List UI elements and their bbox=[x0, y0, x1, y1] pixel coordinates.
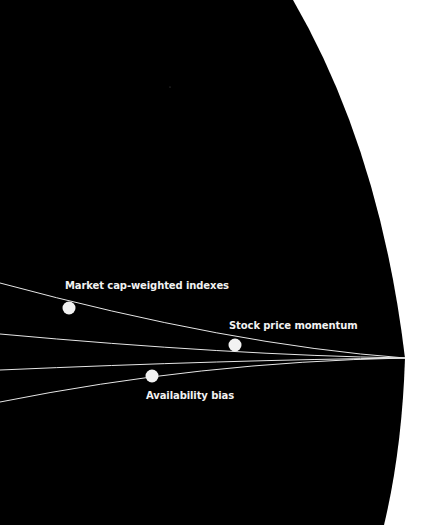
stock-price-momentum-label: Stock price momentum bbox=[229, 320, 358, 332]
availability-bias-dot bbox=[146, 370, 159, 383]
convergence-diagram bbox=[0, 0, 424, 525]
speck bbox=[169, 86, 170, 87]
stock-momentum-dot bbox=[229, 339, 242, 352]
diagram-canvas: Market cap-weighted indexes Stock price … bbox=[0, 0, 424, 525]
availability-bias-label: Availability bias bbox=[146, 390, 234, 402]
black-field bbox=[0, 0, 405, 525]
market-cap-weighted-indexes-label: Market cap-weighted indexes bbox=[65, 280, 229, 292]
market-cap-dot bbox=[63, 302, 76, 315]
